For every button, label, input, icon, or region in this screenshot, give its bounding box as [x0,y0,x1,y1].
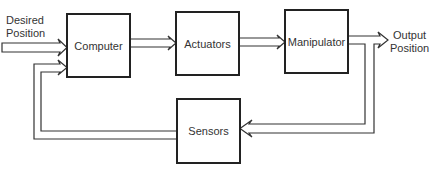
computer-block: Computer [66,13,131,78]
output-label-line1: Output [390,29,429,42]
manipulator-block: Manipulator [284,9,349,74]
input-arrow [2,39,67,56]
input-label-line2: Position [6,27,45,40]
sensors-block: Sensors [176,98,241,164]
computer-label: Computer [74,40,122,52]
sensors-label: Sensors [188,125,228,137]
manipulator-label: Manipulator [288,36,345,48]
actuators-to-manipulator-arrow [239,35,285,49]
diagram-canvas: Computer Actuators Manipulator Sensors D… [0,0,444,170]
output-label: Output Position [390,29,429,55]
output-label-line2: Position [390,42,429,55]
computer-to-actuators-arrow [130,36,176,50]
input-label: Desired Position [6,14,45,40]
actuators-block: Actuators [175,11,240,76]
actuators-label: Actuators [184,38,230,50]
input-label-line1: Desired [6,14,45,27]
